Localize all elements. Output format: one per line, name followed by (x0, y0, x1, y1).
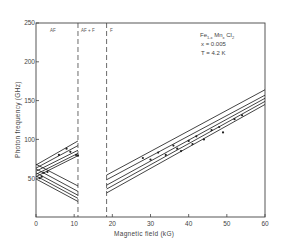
data-point (46, 171, 48, 173)
data-point (233, 118, 235, 120)
region-label-af: AF (50, 28, 56, 33)
y-axis-label: Photon frequency (GHz) (14, 81, 22, 158)
data-point (195, 135, 197, 137)
data-point (157, 151, 159, 153)
x-axis-label: Magnetic field (kG) (114, 230, 174, 238)
data-point (149, 158, 151, 160)
legend-composition: x = 0.005 (201, 41, 227, 47)
data-point (39, 177, 41, 179)
legend-material: Fe1-x Mnx Cl2 (200, 32, 235, 40)
data-point (58, 154, 60, 156)
data-point (191, 143, 193, 145)
data-point (165, 154, 167, 156)
y-tick-label: 250 (24, 19, 35, 26)
data-point (41, 176, 43, 178)
data-point (77, 155, 79, 157)
legend-annotation: Fe1-x Mnx Cl2 x = 0.005 T = 4.2 K (200, 32, 235, 56)
data-point (69, 151, 71, 153)
series-line (107, 95, 265, 180)
data-point (176, 148, 178, 150)
y-tick-label: 100 (24, 136, 35, 143)
data-point (188, 140, 190, 142)
data-points (39, 114, 243, 179)
region-label-af-f: AF + F (81, 28, 95, 33)
region-label-f: F (110, 28, 113, 33)
x-tick-label: 40 (185, 220, 193, 227)
data-point (172, 145, 174, 147)
x-tick-label: 30 (147, 220, 155, 227)
series-line (107, 98, 265, 185)
legend-temperature: T = 4.2 K (201, 50, 225, 56)
series-line (36, 169, 78, 192)
data-point (142, 157, 144, 159)
series-line (107, 101, 265, 189)
data-point (210, 129, 212, 131)
data-point (218, 126, 220, 128)
y-tick-label: 150 (24, 97, 35, 104)
x-tick-label: 20 (109, 220, 117, 227)
series-line (107, 90, 265, 175)
data-point (203, 138, 205, 140)
data-point (241, 114, 243, 116)
x-tick-label: 0 (34, 220, 38, 227)
series-line (36, 176, 78, 199)
data-point (43, 172, 45, 174)
series-line (36, 156, 78, 177)
data-point (222, 131, 224, 133)
series-line (107, 104, 265, 192)
chart: 010203040506050100150200250 AF AF + F F … (0, 0, 282, 250)
x-tick-label: 50 (223, 220, 231, 227)
y-tick-label: 50 (28, 175, 36, 182)
data-series (36, 90, 265, 202)
x-tick-label: 10 (71, 220, 79, 227)
phase-boundaries (78, 23, 107, 217)
data-point (75, 154, 77, 156)
data-point (180, 150, 182, 152)
data-point (65, 148, 67, 150)
x-tick-label: 60 (261, 220, 269, 227)
y-tick-label: 200 (24, 58, 35, 65)
